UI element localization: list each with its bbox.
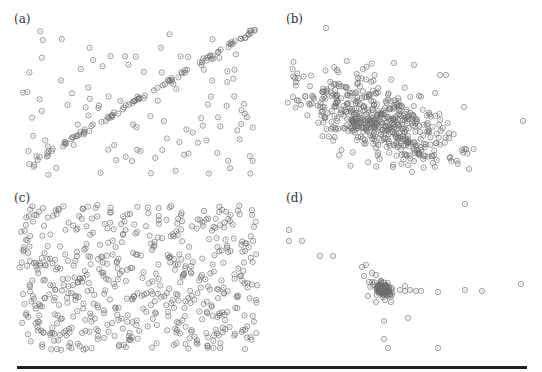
scatter-plots-canvas <box>0 0 542 372</box>
scatter-panel-d <box>286 201 523 350</box>
bottom-rule-divider <box>17 366 527 369</box>
panel-label-c: (c) <box>14 191 30 205</box>
panel-label-b: (b) <box>286 12 303 26</box>
figure: (a) (b) (c) (d) <box>0 0 542 372</box>
panel-label-d: (d) <box>286 191 303 205</box>
scatter-panel-b <box>285 25 526 174</box>
panel-label-a: (a) <box>14 12 31 26</box>
scatter-panel-a <box>20 27 257 177</box>
scatter-panel-c <box>17 203 260 353</box>
